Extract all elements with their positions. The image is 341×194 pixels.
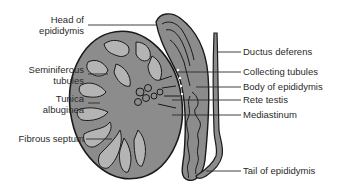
label-head-of-epididymis: Head of epididymis bbox=[0, 14, 84, 36]
testis-diagram: Head of epididymis Seminiferous tubules … bbox=[0, 0, 341, 194]
label-line: tubules bbox=[0, 75, 84, 86]
label-line: Head of bbox=[0, 14, 84, 25]
label-seminiferous-tubules: Seminiferous tubules bbox=[0, 64, 84, 86]
label-line: epididymis bbox=[0, 25, 84, 36]
label-collecting-tubules: Collecting tubules bbox=[243, 66, 318, 77]
label-tunica-albuginea: Tunica albuginea bbox=[0, 93, 84, 115]
label-tail-of-epididymis: Tail of epididymis bbox=[243, 165, 315, 176]
label-line: Fibrous septum bbox=[0, 133, 84, 144]
label-line: albuginea bbox=[0, 104, 84, 115]
label-rete-testis: Rete testis bbox=[243, 94, 288, 105]
label-line: Seminiferous bbox=[0, 64, 84, 75]
label-body-of-epididymis: Body of epididymis bbox=[243, 81, 323, 92]
label-line: Tunica bbox=[0, 93, 84, 104]
label-ductus-deferens: Ductus deferens bbox=[243, 46, 312, 57]
label-fibrous-septum: Fibrous septum bbox=[0, 133, 84, 144]
label-mediastinum: Mediastinum bbox=[243, 109, 297, 120]
